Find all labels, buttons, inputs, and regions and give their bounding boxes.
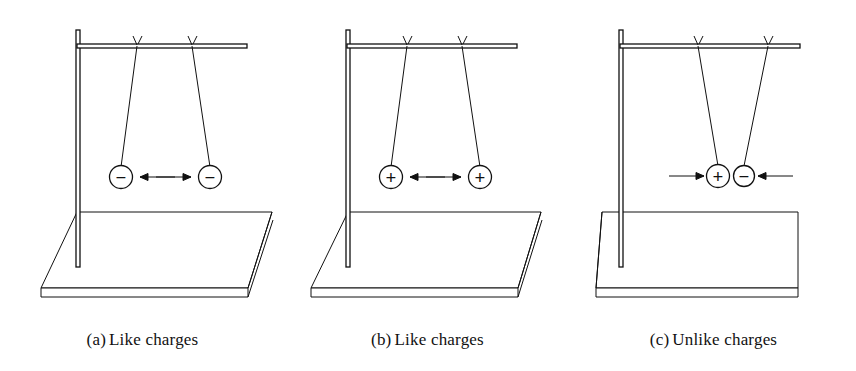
panel-a: − − (a)Like charges bbox=[0, 0, 285, 371]
string-left bbox=[121, 46, 137, 167]
charge-ball-left: + bbox=[707, 165, 730, 188]
panel-c-caption: (c)Unlike charges bbox=[571, 330, 856, 350]
charge-symbol-left: + bbox=[386, 167, 397, 188]
charge-ball-right: − bbox=[199, 166, 222, 189]
panel-b-caption-text: Like charges bbox=[395, 330, 484, 349]
string-left bbox=[698, 46, 718, 166]
panel-a-caption-text: Like charges bbox=[109, 330, 198, 349]
panel-b-caption: (b)Like charges bbox=[285, 330, 570, 350]
panel-a-caption: (a)Like charges bbox=[0, 330, 285, 350]
charge-ball-right: + bbox=[469, 166, 492, 189]
charge-interaction-figure: − − (a)Like charges bbox=[0, 0, 856, 371]
panel-c-caption-text: Unlike charges bbox=[672, 330, 777, 349]
charge-ball-right: − bbox=[734, 166, 755, 187]
vertical-rod bbox=[619, 30, 623, 267]
charge-ball-left: + bbox=[380, 166, 403, 189]
string-right bbox=[192, 46, 210, 167]
panel-b: + + (b)Like charges bbox=[285, 0, 570, 371]
panel-b-diagram: + + bbox=[285, 0, 570, 320]
horizontal-crossbar bbox=[620, 44, 800, 48]
panel-a-caption-label: (a) bbox=[87, 330, 106, 349]
horizontal-crossbar bbox=[347, 44, 517, 48]
panel-c-diagram: + − bbox=[571, 0, 856, 320]
panel-c: + − (c)Unlike charges bbox=[571, 0, 856, 371]
horizontal-crossbar bbox=[77, 44, 247, 48]
panel-b-caption-label: (b) bbox=[371, 330, 391, 349]
panel-a-diagram: − − bbox=[0, 0, 285, 320]
charge-symbol-right: + bbox=[475, 167, 486, 188]
force-arrow-right bbox=[758, 173, 793, 180]
string-left bbox=[391, 46, 407, 167]
vertical-rod bbox=[346, 30, 350, 267]
stand-base bbox=[596, 212, 798, 297]
panel-c-caption-label: (c) bbox=[650, 330, 669, 349]
force-arrow-right bbox=[426, 174, 461, 181]
charge-ball-left: − bbox=[110, 166, 133, 189]
charge-symbol-right: − bbox=[739, 166, 750, 187]
charge-symbol-left: − bbox=[116, 167, 127, 188]
string-right bbox=[744, 46, 768, 166]
force-arrow-right bbox=[156, 174, 191, 181]
charge-symbol-left: + bbox=[713, 166, 724, 187]
string-right bbox=[462, 46, 480, 167]
force-arrow-left bbox=[669, 173, 704, 180]
charge-symbol-right: − bbox=[205, 167, 216, 188]
vertical-rod bbox=[76, 30, 80, 267]
